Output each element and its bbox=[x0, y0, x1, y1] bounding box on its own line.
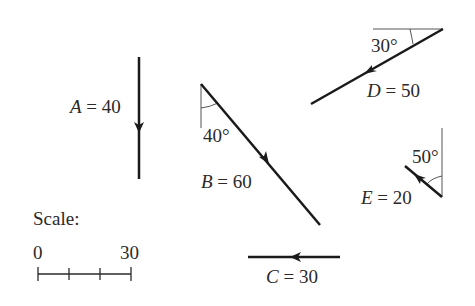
vector-a-label: A = 40 bbox=[68, 96, 121, 117]
angle-arc bbox=[201, 103, 218, 108]
vector-e-label: E = 20 bbox=[360, 187, 412, 208]
vector-b-angle-label: 40° bbox=[203, 125, 230, 146]
vector-a: A = 40 bbox=[68, 57, 144, 179]
vector-b: 40° B = 60 bbox=[201, 84, 320, 225]
scale-end-label: 30 bbox=[120, 242, 139, 263]
vector-diagram: A = 40 40° B = 60 C = 30 30° D = 50 50° … bbox=[0, 0, 475, 306]
vector-c: C = 30 bbox=[248, 252, 340, 287]
angle-arc bbox=[410, 29, 413, 44]
vector-d: 30° D = 50 bbox=[311, 29, 443, 104]
angle-arc bbox=[427, 176, 442, 184]
vector-e-angle-label: 50° bbox=[412, 146, 439, 167]
scale-title: Scale: bbox=[33, 208, 79, 229]
scale-bar: Scale: 0 30 bbox=[33, 208, 139, 281]
vector-d-angle-label: 30° bbox=[371, 35, 398, 56]
vector-c-label: C = 30 bbox=[266, 266, 318, 287]
vector-d-label: D = 50 bbox=[366, 80, 420, 101]
scale-start-label: 0 bbox=[33, 242, 43, 263]
vector-e: 50° E = 20 bbox=[360, 128, 442, 208]
vector-b-label: B = 60 bbox=[201, 171, 252, 192]
